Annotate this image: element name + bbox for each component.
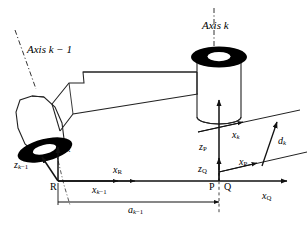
vector-x-Q-label: xQ: [262, 191, 271, 202]
dimension-a-k-minus-1-label: ak−1: [128, 205, 143, 216]
vector-x-k-label: xk: [232, 130, 239, 141]
joint-cylinder-k-minus-1: [15, 96, 75, 167]
vector-x-k-minus-1-label: xk−1: [92, 185, 107, 196]
dh-parameters-figure: Axis k Axis k − 1 zR zk−1 R xR xk−1 zP z…: [0, 0, 307, 231]
vector-x-P-label: xP: [239, 157, 247, 168]
axis-k-minus-1-label: Axis k − 1: [27, 44, 72, 55]
vector-z-k-minus-1-label: zk−1: [14, 160, 28, 171]
dimension-d-k-label: dk: [278, 136, 286, 147]
vector-z-R-label: zR: [62, 143, 70, 154]
dimension-a-k-minus-1-arrow: [58, 183, 219, 205]
figure-canvas: [0, 0, 307, 231]
point-P-label: P: [209, 182, 215, 192]
link-arm: [52, 72, 198, 131]
point-Q-label: Q: [224, 182, 231, 192]
vector-z-P-label: zP: [199, 142, 207, 153]
point-R-label: R: [50, 182, 57, 192]
vector-x-R-label: xR: [113, 165, 122, 176]
vector-z-k-minus-1-arrow: [42, 157, 58, 181]
vector-z-Q-label: zQ: [198, 164, 207, 175]
axis-k-label: Axis k: [202, 20, 229, 31]
